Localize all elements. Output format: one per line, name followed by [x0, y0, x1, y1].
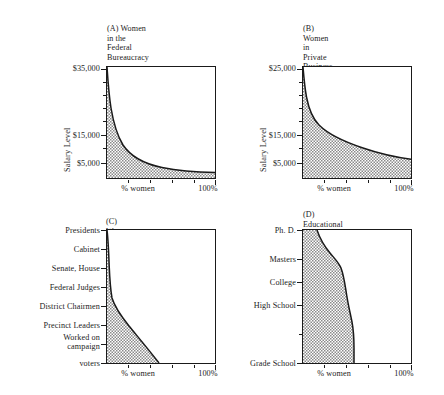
panel-c-ytick-0: Presidents	[8, 226, 100, 235]
panel-b-xlabel: % women	[304, 184, 364, 193]
panel-b-ytick-2: $5,000	[244, 159, 296, 168]
panel-c-ytick-6: Worked on campaign	[8, 334, 100, 351]
panel-d-ytick-4: Grade School	[228, 359, 296, 368]
panel-b-xtickmark-2	[368, 180, 369, 183]
panel-c-ytick-7: voters	[8, 359, 100, 368]
panel-d-ytick-3: High School	[232, 301, 296, 310]
panel-b-xtickmark-3	[390, 180, 391, 183]
panel-c-ytick-3: Federal Judges	[8, 283, 100, 292]
panel-c-xtickmark-2	[172, 365, 173, 368]
panel-d-xlabel: % women	[304, 369, 364, 378]
panel-a-xtickmark-2	[172, 180, 173, 183]
panel-d-ytick-2: College	[238, 278, 296, 287]
panel-d-plot-area	[302, 229, 412, 364]
panel-d-xtickmark-0	[324, 365, 325, 368]
panel-c-xlabel-right: 100%	[186, 369, 230, 378]
panel-c-ytick-4: District Chairmen	[8, 302, 100, 311]
panel-c-xlabel: % women	[108, 369, 168, 378]
panel-d-xtickmark-1	[346, 365, 347, 368]
panel-c-curve	[107, 230, 216, 364]
panel-d-xlabel-right: 100%	[382, 369, 426, 378]
panel-d-xtickmark-2	[368, 365, 369, 368]
panel-a-xtickmark-1	[150, 180, 151, 183]
panel-a-ytick-2: $5,000	[48, 159, 100, 168]
panel-c-xtickmark-1	[150, 365, 151, 368]
panel-b-plot-area	[302, 66, 412, 179]
panel-c-xtickmark-0	[128, 365, 129, 368]
panel-a-ytick-1: $15,000	[48, 131, 100, 140]
panel-c-ytick-5: Precinct Leaders	[8, 321, 100, 330]
panel-a-ytick-0: $35,000	[48, 64, 100, 73]
four-panel-figure: (A) Women in the Federal Bureaucracy Sal…	[0, 0, 444, 395]
panel-d-ytick-0: Ph. D.	[238, 226, 296, 235]
panel-b-ytick-0: $25,000	[244, 64, 296, 73]
panel-d-curve	[303, 230, 412, 364]
panel-b-xtickmark-1	[346, 180, 347, 183]
panel-a-xlabel: % women	[108, 184, 168, 193]
panel-a-xlabel-right: 100%	[186, 184, 230, 193]
panel-c-ytick-1: Cabinet	[8, 245, 100, 254]
panel-b-ytick-1: $15,000	[244, 131, 296, 140]
panel-d-ytick-1: Masters	[238, 255, 296, 264]
panel-a-xtickmark-0	[128, 180, 129, 183]
panel-a-title: (A) Women in the Federal Bureaucracy	[107, 24, 149, 62]
panel-a-curve	[107, 67, 216, 179]
panel-b-curve	[303, 67, 412, 179]
panel-c-xtickmark-3	[194, 365, 195, 368]
panel-c-plot-area	[106, 229, 216, 364]
panel-b-xlabel-right: 100%	[382, 184, 426, 193]
panel-b-title: (B) Women in Private Business	[303, 24, 333, 72]
panel-a-xtickmark-3	[194, 180, 195, 183]
panel-b-xtickmark-0	[324, 180, 325, 183]
panel-c-ytick-2: Senate, House	[8, 264, 100, 273]
panel-a-plot-area	[106, 66, 216, 179]
panel-d-xtickmark-3	[390, 365, 391, 368]
